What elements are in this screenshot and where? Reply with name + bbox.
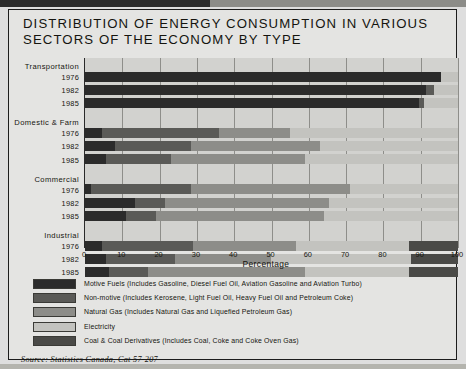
x-tick-70: 70 <box>341 250 349 259</box>
scan-artifact-top-right <box>210 0 466 7</box>
x-tick-0: 0 <box>82 250 86 259</box>
bar-segment-natural-gas <box>191 184 350 194</box>
chart-title: DISTRIBUTION OF ENERGY CONSUMPTION IN VA… <box>23 16 443 47</box>
chart-page: DISTRIBUTION OF ENERGY CONSUMPTION IN VA… <box>0 0 466 369</box>
legend-swatch-natural-gas <box>33 307 76 317</box>
legend-swatch-non-motive <box>33 293 76 303</box>
legend-swatch-coal-coal-derivatives <box>33 336 76 346</box>
bar-segment-motive-fuels <box>85 128 102 138</box>
row-label-1982: 1982 <box>9 199 79 208</box>
row-label-1976: 1976 <box>9 242 79 251</box>
bar-segment-natural-gas <box>171 154 305 164</box>
bar-segment-natural-gas <box>193 241 296 251</box>
legend-label: Natural Gas (Includes Natural Gas and Li… <box>84 308 292 315</box>
plot-area: Transportation197619821985Domestic & Far… <box>75 58 457 248</box>
row-label-1976: 1976 <box>9 129 79 138</box>
x-tick-10: 10 <box>117 250 125 259</box>
legend-item: Natural Gas (Includes Natural Gas and Li… <box>33 306 453 320</box>
bar-segment-non-motive <box>102 128 219 138</box>
bar-segment-motive-fuels <box>85 141 115 151</box>
bar-segment-motive-fuels <box>85 198 135 208</box>
row-label-1976: 1976 <box>9 186 79 195</box>
bar-segment-non-motive <box>115 141 191 151</box>
bar-transportation-1982 <box>85 85 458 95</box>
row-label-1985: 1985 <box>9 156 79 165</box>
bar-segment-electricity <box>350 184 458 194</box>
bar-segment-natural-gas <box>191 141 320 151</box>
bar-segment-non-motive <box>426 85 433 95</box>
bar-segment-natural-gas <box>219 128 290 138</box>
x-tick-30: 30 <box>192 250 200 259</box>
bar-segment-electricity <box>441 72 458 82</box>
group-label-commercial: Commercial <box>9 175 79 184</box>
x-tick-100: 100 <box>451 250 463 259</box>
row-label-1982: 1982 <box>9 86 79 95</box>
legend-item: Coal & Coal Derivatives (Includes Coal, … <box>33 335 453 349</box>
bar-segment-electricity <box>320 141 458 151</box>
bar-domestic-farm-1982 <box>85 141 458 151</box>
bar-segment-motive-fuels <box>85 154 106 164</box>
bar-segment-electricity <box>434 85 458 95</box>
bar-segment-motive-fuels <box>85 241 102 251</box>
row-label-1976: 1976 <box>9 73 79 82</box>
bar-segment-electricity <box>329 198 458 208</box>
bar-transportation-1976 <box>85 72 458 82</box>
bar-segment-natural-gas <box>156 211 324 221</box>
row-label-1985: 1985 <box>9 268 79 277</box>
x-tick-60: 60 <box>304 250 312 259</box>
bar-commercial-1985 <box>85 211 458 221</box>
plot-canvas <box>84 58 458 248</box>
legend-label: Electricity <box>84 323 115 330</box>
row-label-1985: 1985 <box>9 212 79 221</box>
x-tick-80: 80 <box>378 250 386 259</box>
bar-segment-electricity <box>324 211 458 221</box>
legend-item: Non-motive (Includes Kerosene, Light Fue… <box>33 292 453 306</box>
chart-frame: DISTRIBUTION OF ENERGY CONSUMPTION IN VA… <box>8 9 457 360</box>
legend-label: Coal & Coal Derivatives (Includes Coal, … <box>84 337 299 344</box>
bar-domestic-farm-1976 <box>85 128 458 138</box>
row-label-1982: 1982 <box>9 142 79 151</box>
bar-segment-electricity <box>296 241 410 251</box>
x-tick-50: 50 <box>266 250 274 259</box>
group-label-industrial: Industrial <box>9 231 79 240</box>
legend-swatch-motive-fuels <box>33 279 76 289</box>
bar-transportation-1985 <box>85 98 458 108</box>
bar-commercial-1976 <box>85 184 458 194</box>
bar-segment-electricity <box>424 98 458 108</box>
row-label-1982: 1982 <box>9 255 79 264</box>
bar-segment-motive-fuels <box>85 98 419 108</box>
x-tick-40: 40 <box>229 250 237 259</box>
legend-swatch-electricity <box>33 322 76 332</box>
group-label-transportation: Transportation <box>9 62 79 71</box>
row-label-1985: 1985 <box>9 99 79 108</box>
legend-label: Motive Fuels (Includes Gasoline, Diesel … <box>84 280 362 287</box>
group-label-domestic-farm: Domestic & Farm <box>9 118 79 127</box>
bar-segment-non-motive <box>126 211 156 221</box>
gridline <box>458 58 459 248</box>
bar-segment-electricity <box>305 154 458 164</box>
bar-domestic-farm-1985 <box>85 154 458 164</box>
bar-segment-non-motive <box>102 241 193 251</box>
bar-commercial-1982 <box>85 198 458 208</box>
legend-item: Motive Fuels (Includes Gasoline, Diesel … <box>33 278 453 292</box>
bar-segment-natural-gas <box>165 198 329 208</box>
x-tick-20: 20 <box>154 250 162 259</box>
bar-segment-non-motive <box>135 198 165 208</box>
source-note: Source: Statistics Canada, Cat 57-207 <box>21 355 158 364</box>
bar-segment-non-motive <box>91 184 192 194</box>
bar-segment-motive-fuels <box>85 211 126 221</box>
scan-artifact-bottom <box>0 364 466 369</box>
bar-segment-electricity <box>290 128 458 138</box>
x-tick-90: 90 <box>416 250 424 259</box>
x-axis-title: Percentage <box>75 259 457 269</box>
bar-segment-non-motive <box>106 154 171 164</box>
bar-segment-motive-fuels <box>85 85 426 95</box>
legend-label: Non-motive (Includes Kerosene, Light Fue… <box>84 294 353 301</box>
legend: Motive Fuels (Includes Gasoline, Diesel … <box>33 278 453 349</box>
bar-segment-motive-fuels <box>85 72 441 82</box>
legend-item: Electricity <box>33 321 453 335</box>
